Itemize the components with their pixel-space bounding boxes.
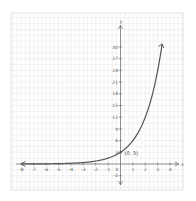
x-tick-label: 2 bbox=[144, 167, 147, 172]
x-tick-label: 4 bbox=[169, 167, 172, 172]
x-tick-label: -3 bbox=[81, 167, 86, 172]
y-intercept-point bbox=[119, 151, 121, 153]
x-tick-label: -4 bbox=[69, 167, 74, 172]
y-tick-label: 6 bbox=[115, 138, 118, 143]
x-tick-label: -7 bbox=[31, 167, 36, 172]
y-tick-label: 9 bbox=[115, 127, 118, 132]
x-tick-label: -5 bbox=[56, 167, 61, 172]
x-tick-label: -8 bbox=[19, 167, 24, 172]
x-tick-label: -1 bbox=[106, 167, 111, 172]
x-axis-label: x bbox=[181, 162, 184, 167]
x-tick-label: 0 bbox=[116, 167, 119, 172]
x-tick-label: -2 bbox=[93, 167, 98, 172]
y-intercept-label: (0, 3) bbox=[125, 150, 138, 156]
y-tick-label: 18 bbox=[112, 91, 118, 96]
y-tick-label: 15 bbox=[112, 103, 118, 108]
y-tick-label: 30 bbox=[112, 45, 118, 50]
y-tick-label: 21 bbox=[112, 80, 118, 85]
y-tick-label: 27 bbox=[112, 56, 118, 61]
exponential-graph: -8-7-6-5-4-3-2-101234-336912151821242730… bbox=[0, 0, 196, 201]
y-tick-label: 12 bbox=[112, 115, 118, 120]
x-tick-label: 1 bbox=[131, 167, 134, 172]
x-tick-label: 3 bbox=[156, 167, 159, 172]
x-tick-label: -6 bbox=[44, 167, 49, 172]
y-tick-label: 24 bbox=[112, 68, 118, 73]
y-axis-label: y bbox=[120, 19, 123, 24]
y-tick-label: -3 bbox=[114, 173, 119, 178]
